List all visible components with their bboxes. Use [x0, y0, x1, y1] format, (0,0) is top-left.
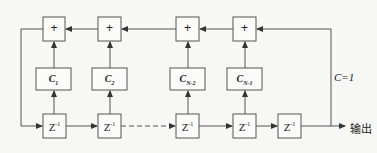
- delay-label-2: Z-1: [98, 121, 121, 133]
- coef-label-3: CN-2: [170, 74, 205, 86]
- delay-label-1: Z-1: [43, 121, 66, 133]
- delay-label-5: Z-1: [278, 121, 301, 133]
- adder-label-2: +: [98, 22, 121, 34]
- adder-label-3: +: [176, 22, 199, 34]
- adder-label-1: +: [43, 22, 65, 34]
- delay-label-3: Z-1: [176, 121, 199, 133]
- feedback-label: C=1: [334, 71, 354, 83]
- adder-label-4: +: [233, 22, 256, 34]
- delay-label-4: Z-1: [233, 121, 256, 133]
- coef-label-2: C2: [92, 74, 127, 86]
- coef-label-4: CN-1: [227, 74, 262, 86]
- output-label: 输出: [350, 120, 372, 136]
- coef-label-1: C1: [36, 74, 71, 86]
